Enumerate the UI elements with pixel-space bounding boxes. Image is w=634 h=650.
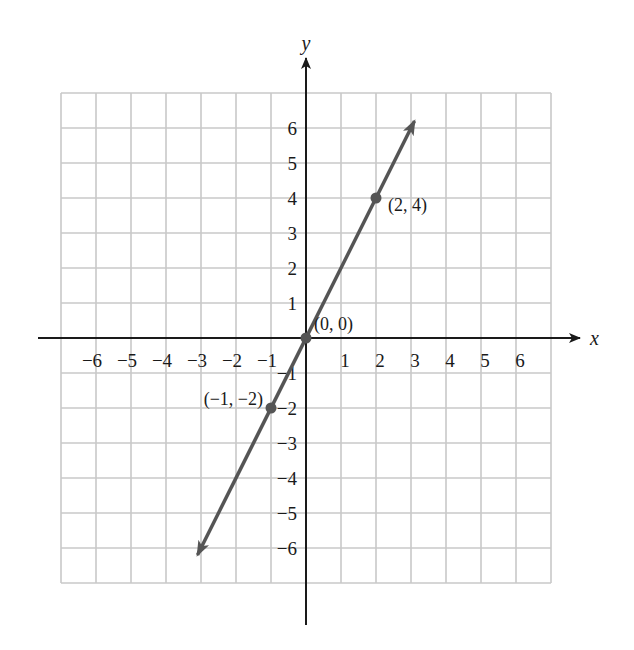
y-tick-label: 5 — [288, 153, 298, 174]
x-tick-label: −4 — [152, 350, 173, 371]
y-tick-label: 6 — [288, 118, 298, 139]
x-tick-label: −2 — [222, 350, 242, 371]
y-tick-label: 1 — [288, 293, 298, 314]
y-tick-label: −3 — [277, 433, 297, 454]
x-tick-label: 5 — [480, 350, 490, 371]
x-tick-label: −6 — [82, 350, 102, 371]
y-tick-label: −5 — [277, 503, 297, 524]
y-tick-label: −2 — [277, 398, 297, 419]
x-tick-label: 6 — [515, 350, 525, 371]
x-tick-label: −3 — [187, 350, 207, 371]
x-tick-label: 1 — [340, 350, 350, 371]
y-tick-label: −6 — [277, 538, 297, 559]
data-point — [266, 403, 277, 414]
point-label: (2, 4) — [388, 195, 427, 216]
x-tick-label: 3 — [410, 350, 420, 371]
y-tick-label: 3 — [288, 223, 298, 244]
x-axis-label: x — [589, 327, 599, 349]
x-tick-label: 4 — [445, 350, 455, 371]
data-point — [301, 333, 312, 344]
y-tick-label: 2 — [288, 258, 298, 279]
y-tick-label: −4 — [277, 468, 298, 489]
x-tick-label: 2 — [375, 350, 385, 371]
point-label: (−1, −2) — [204, 389, 263, 410]
x-tick-label: −1 — [257, 350, 277, 371]
y-axis-label: y — [300, 32, 311, 55]
x-tick-label: −5 — [117, 350, 137, 371]
coordinate-plane: −6−5−4−3−2−1123456−6−5−4−3−2−1123456 (−1… — [0, 0, 634, 650]
data-point — [371, 193, 382, 204]
y-tick-label: 4 — [288, 188, 298, 209]
point-label: (0, 0) — [314, 314, 353, 335]
